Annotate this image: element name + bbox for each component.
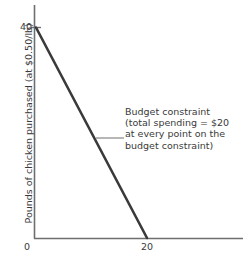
annotation-line-3: at every point on the bbox=[125, 128, 247, 139]
annotation-line-4: budget constraint) bbox=[125, 140, 247, 151]
annotation-line-1: Budget constraint bbox=[125, 106, 247, 117]
y-axis-title: Pounds of chicken purchased (at $0.50/lb… bbox=[23, 24, 34, 224]
budget-constraint-chart: 40 0 20 Pounds of chicken purchased (at … bbox=[0, 0, 250, 262]
x-axis-tick-label-20: 20 bbox=[137, 241, 157, 252]
annotation-line-2: (total spending = $20 bbox=[125, 117, 247, 128]
x-axis-tick-label-0: 0 bbox=[22, 241, 32, 252]
budget-constraint-annotation: Budget constraint (total spending = $20 … bbox=[125, 106, 247, 151]
